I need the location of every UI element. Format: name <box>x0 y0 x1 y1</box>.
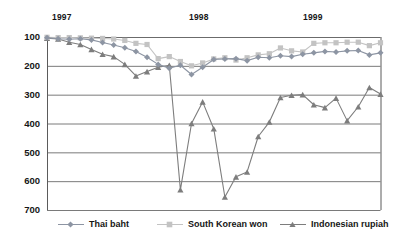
diamond-marker-icon <box>333 49 339 55</box>
square-marker-icon <box>278 45 283 50</box>
square-marker-icon <box>367 43 372 48</box>
axis-lines <box>48 37 382 210</box>
legend-item-indonesian-rupiah[interactable]: Indonesian rupiah <box>280 216 389 232</box>
diamond-marker-icon <box>58 219 84 229</box>
series-line <box>47 38 381 75</box>
square-marker-icon <box>322 40 327 45</box>
legend-label-indonesian-rupiah: Indonesian rupiah <box>311 219 389 229</box>
triangle-marker-icon <box>266 119 272 125</box>
triangle-marker-icon <box>177 187 183 193</box>
square-marker-icon <box>111 36 116 41</box>
diamond-marker-icon <box>311 50 317 56</box>
square-marker-icon <box>122 38 127 43</box>
triangle-marker-icon <box>200 99 206 105</box>
triangle-marker-icon <box>144 69 150 75</box>
square-marker-icon <box>156 56 161 61</box>
chart-container: 1997 1998 1999 100 200 300 400 500 600 7… <box>0 0 401 244</box>
diamond-marker-icon <box>111 42 117 48</box>
triangle-marker-icon <box>333 95 339 101</box>
square-marker-icon <box>311 41 316 46</box>
legend-item-thai-baht[interactable]: Thai baht <box>58 216 129 232</box>
triangle-marker-icon <box>366 85 372 91</box>
triangle-marker-icon <box>280 219 306 229</box>
gridlines <box>47 38 381 211</box>
diamond-marker-icon <box>378 50 384 56</box>
diamond-marker-icon <box>366 52 372 58</box>
square-marker-icon <box>289 48 294 53</box>
chart-plot-area <box>0 0 401 244</box>
diamond-marker-icon <box>355 48 361 54</box>
square-marker-icon <box>157 219 183 229</box>
legend-label-thai-baht: Thai baht <box>89 219 129 229</box>
diamond-marker-icon <box>289 54 295 60</box>
square-marker-icon <box>144 42 149 47</box>
diamond-marker-icon <box>277 53 283 59</box>
triangle-marker-icon <box>188 121 194 127</box>
square-marker-icon <box>333 40 338 45</box>
square-marker-icon <box>133 41 138 46</box>
square-marker-icon <box>356 40 361 45</box>
diamond-marker-icon <box>322 48 328 54</box>
triangle-marker-icon <box>244 169 250 175</box>
triangle-marker-icon <box>88 47 94 53</box>
series-thai-baht <box>44 35 384 78</box>
data-series-layer <box>44 35 384 200</box>
diamond-marker-icon <box>122 45 128 51</box>
triangle-marker-icon <box>222 194 228 200</box>
triangle-marker-icon <box>211 126 217 132</box>
square-marker-icon <box>167 54 172 59</box>
legend-item-south-korean-won[interactable]: South Korean won <box>157 216 268 232</box>
triangle-marker-icon <box>355 104 361 110</box>
legend-label-south-korean-won: South Korean won <box>188 219 268 229</box>
square-marker-icon <box>189 63 194 68</box>
diamond-marker-icon <box>344 48 350 54</box>
triangle-marker-icon <box>233 174 239 180</box>
square-marker-icon <box>345 40 350 45</box>
triangle-marker-icon <box>377 91 383 97</box>
diamond-marker-icon <box>144 54 150 60</box>
diamond-marker-icon <box>133 48 139 54</box>
square-marker-icon <box>378 40 383 45</box>
chart-legend: Thai baht South Korean won Indonesian ru… <box>47 216 381 232</box>
